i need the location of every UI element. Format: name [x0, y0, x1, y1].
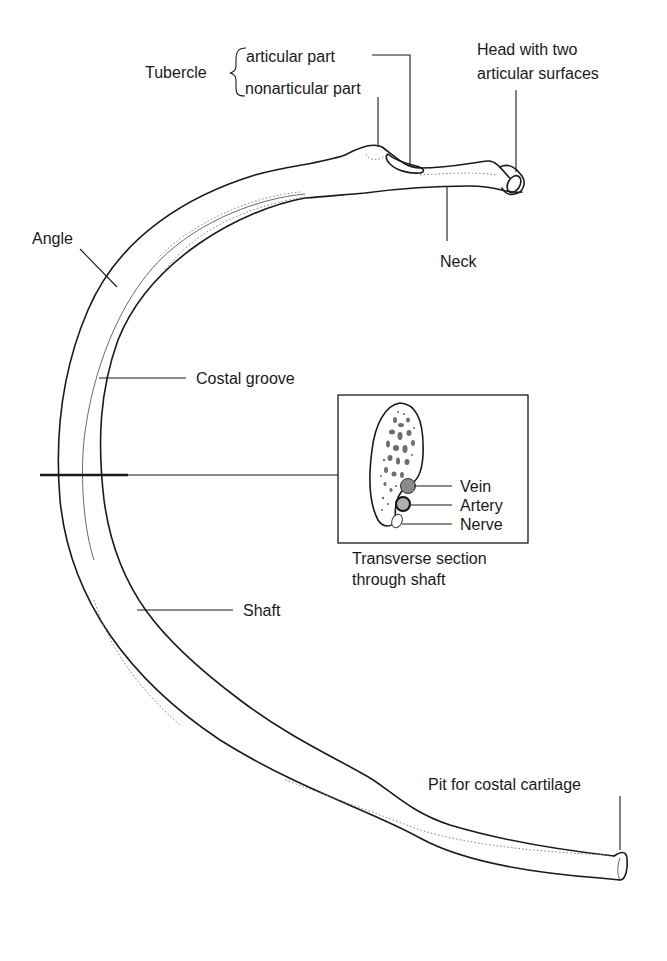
label-tubercle-nonarticular: nonarticular part	[245, 80, 361, 97]
inset-caption-line1: Transverse section	[352, 550, 487, 567]
label-head-line1: Head with two	[477, 41, 578, 58]
label-angle: Angle	[32, 230, 73, 247]
artery-circle	[396, 497, 410, 511]
inset-caption-line2: through shaft	[352, 571, 446, 588]
vein-circle	[401, 479, 416, 494]
rib-diagram: Tubercle articular part nonarticular par…	[0, 0, 667, 961]
label-shaft: Shaft	[243, 602, 281, 619]
label-head-line2: articular surfaces	[477, 65, 599, 82]
costal-cartilage-pit	[614, 853, 627, 881]
label-artery: Artery	[460, 497, 503, 514]
tubercle-articular-facet	[386, 154, 423, 173]
label-nerve: Nerve	[460, 516, 503, 533]
label-vein: Vein	[460, 478, 491, 495]
label-pit: Pit for costal cartilage	[428, 776, 581, 793]
label-neck: Neck	[440, 253, 477, 270]
inset-transverse-section: Vein Artery Nerve Transverse section thr…	[338, 395, 528, 588]
leader-lines	[40, 55, 620, 850]
tubercle-brace	[230, 48, 246, 96]
label-tubercle: Tubercle	[145, 64, 207, 81]
label-tubercle-articular: articular part	[246, 48, 335, 65]
label-costal-groove: Costal groove	[196, 370, 295, 387]
